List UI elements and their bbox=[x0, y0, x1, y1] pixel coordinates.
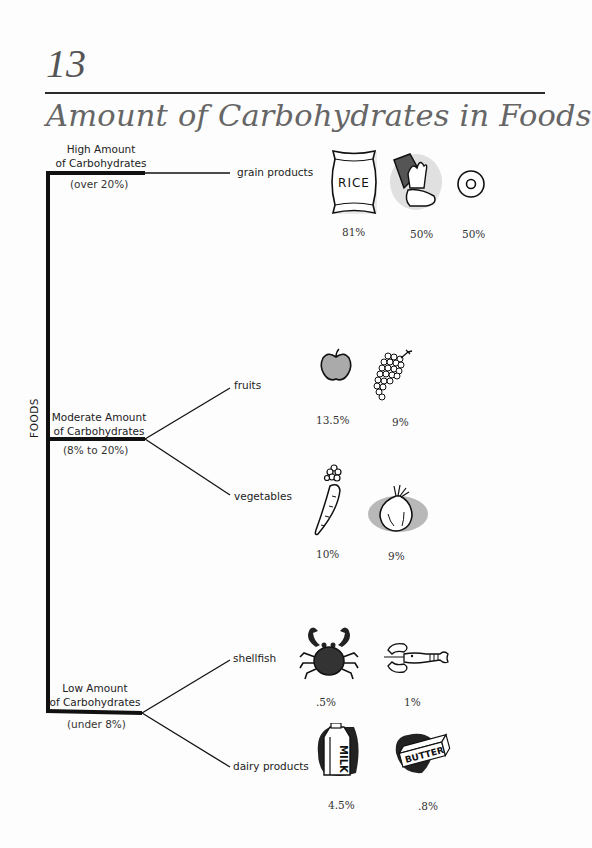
category-high-line2: of Carbohydrates bbox=[46, 156, 156, 170]
rice-bag-icon: RICE bbox=[327, 147, 382, 217]
category-high-range: (over 20%) bbox=[70, 178, 128, 190]
lobster-icon bbox=[382, 640, 450, 676]
percent-carrot: 10% bbox=[316, 548, 339, 560]
milk-carton-icon: MILK bbox=[314, 723, 362, 779]
branch-fruits: fruits bbox=[234, 379, 261, 391]
grapes-icon bbox=[370, 348, 415, 406]
apple-icon bbox=[318, 348, 354, 384]
percent-rice: 81% bbox=[342, 226, 365, 238]
percent-apple: 13.5% bbox=[316, 414, 349, 426]
percent-lobster: 1% bbox=[404, 696, 421, 708]
category-high-label: High Amount of Carbohydrates bbox=[46, 142, 156, 170]
branch-grain-products: grain products bbox=[237, 166, 313, 178]
percent-milk: 4.5% bbox=[328, 799, 355, 811]
onion-icon bbox=[366, 484, 430, 536]
percent-butter: .8% bbox=[418, 800, 438, 812]
category-low-label: Low Amount of Carbohydrates bbox=[46, 681, 144, 709]
percent-doughnut: 50% bbox=[462, 228, 485, 240]
branch-shellfish: shellfish bbox=[233, 652, 276, 664]
doughnut-icon bbox=[455, 168, 487, 200]
percent-grapes: 9% bbox=[392, 416, 409, 428]
branch-dairy-products: dairy products bbox=[233, 760, 309, 772]
category-moderate-label: Moderate Amount of Carbohydrates bbox=[50, 410, 148, 438]
category-high-line1: High Amount bbox=[46, 142, 156, 156]
category-low-range: (under 8%) bbox=[67, 718, 126, 730]
branch-vegetables: vegetables bbox=[234, 490, 292, 502]
svg-text:MILK: MILK bbox=[338, 745, 349, 774]
svg-text:RICE: RICE bbox=[338, 176, 370, 190]
spilled-cereal-box-icon bbox=[390, 152, 445, 217]
category-low-line2: of Carbohydrates bbox=[46, 695, 144, 709]
category-moderate-range: (8% to 20%) bbox=[63, 444, 128, 456]
category-low-line1: Low Amount bbox=[46, 681, 144, 695]
percent-cereal: 50% bbox=[410, 228, 433, 240]
crab-icon bbox=[298, 625, 360, 685]
percent-crab: .5% bbox=[316, 696, 336, 708]
root-label-foods: FOODS bbox=[28, 398, 40, 438]
category-moderate-line1: Moderate Amount bbox=[50, 410, 148, 424]
percent-onion: 9% bbox=[388, 550, 405, 562]
butter-stick-icon: BUTTER bbox=[392, 729, 456, 777]
category-moderate-line2: of Carbohydrates bbox=[50, 424, 148, 438]
carrot-icon bbox=[312, 462, 352, 542]
